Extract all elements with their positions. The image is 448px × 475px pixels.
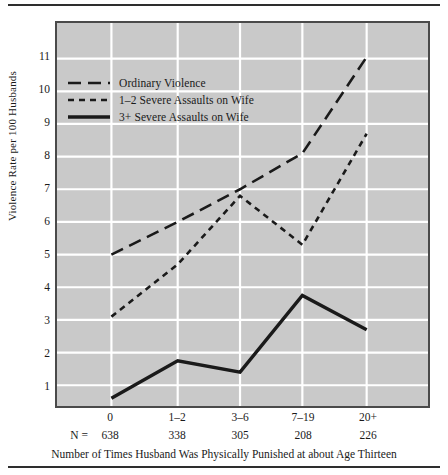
y-tick-label: 7 — [24, 183, 50, 195]
y-tick-label: 6 — [24, 216, 50, 228]
sample-size-value: 226 — [338, 430, 398, 442]
y-tick-label: 5 — [24, 249, 50, 261]
y-tick-label: 1 — [24, 381, 50, 393]
sample-size-row: 638338305208226 — [55, 430, 430, 446]
y-tick-label: 11 — [24, 51, 50, 63]
legend-item: 1–2 Severe Assaults on Wife — [68, 91, 298, 108]
chart-legend: Ordinary Violence1–2 Severe Assaults on … — [68, 74, 298, 125]
legend-swatch-icon — [68, 77, 110, 89]
y-tick-label: 8 — [24, 150, 50, 162]
bottom-rule — [8, 466, 440, 468]
legend-label: 1–2 Severe Assaults on Wife — [119, 94, 254, 106]
legend-item: 3+ Severe Assaults on Wife — [68, 108, 298, 125]
top-rule — [8, 4, 440, 6]
legend-label: Ordinary Violence — [119, 77, 206, 89]
y-tick-label: 3 — [24, 315, 50, 327]
y-tick-label: 10 — [24, 84, 50, 96]
y-tick-label: 2 — [24, 348, 50, 360]
x-tick-label: 3–6 — [210, 412, 270, 424]
sample-size-value: 338 — [147, 430, 207, 442]
y-axis-tick-labels: 1234567891011 — [20, 21, 50, 408]
x-tick-label: 1–2 — [147, 412, 207, 424]
x-axis-tick-labels: 01–23–67–1920+ — [55, 412, 430, 428]
y-tick-label: 9 — [24, 117, 50, 129]
legend-label: 3+ Severe Assaults on Wife — [119, 111, 249, 123]
x-axis-label: Number of Times Husband Was Physically P… — [0, 448, 448, 460]
sample-size-value: 305 — [210, 430, 270, 442]
y-tick-label: 4 — [24, 282, 50, 294]
legend-item: Ordinary Violence — [68, 74, 298, 91]
sample-size-value: 208 — [273, 430, 333, 442]
y-axis-label: Violence Rate per 100 Husbands — [6, 16, 18, 276]
x-tick-label: 7–19 — [273, 412, 333, 424]
chart-figure: Violence Rate per 100 Husbands 123456789… — [0, 0, 448, 475]
x-tick-label: 0 — [80, 412, 140, 424]
sample-size-value: 638 — [80, 430, 140, 442]
x-tick-label: 20+ — [338, 412, 398, 424]
legend-swatch-icon — [68, 111, 110, 123]
legend-swatch-icon — [68, 94, 110, 106]
